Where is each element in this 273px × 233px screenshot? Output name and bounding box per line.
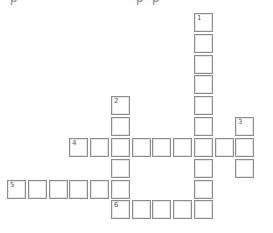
crossword-cell[interactable] xyxy=(69,180,88,199)
crossword-cell[interactable]: 3 xyxy=(235,117,254,136)
crossword-cell[interactable] xyxy=(152,138,171,157)
crossword-cell[interactable]: 2 xyxy=(111,96,130,115)
clue-number: 4 xyxy=(72,139,76,147)
crossword-cell[interactable] xyxy=(132,138,151,157)
clue-number: 1 xyxy=(197,14,201,22)
crossword-cell[interactable] xyxy=(194,180,213,199)
crossword-cell[interactable] xyxy=(173,138,192,157)
crossword-cell[interactable] xyxy=(194,55,213,74)
clue-number: 2 xyxy=(114,97,118,105)
crossword-cell[interactable]: 6 xyxy=(111,200,130,219)
crossword-cell[interactable] xyxy=(111,117,130,136)
crossword-cell[interactable] xyxy=(215,138,234,157)
crossword-cell[interactable]: 4 xyxy=(69,138,88,157)
crossword-cell[interactable] xyxy=(111,159,130,178)
clue-number: 6 xyxy=(114,201,118,209)
crossword-cell[interactable] xyxy=(194,34,213,53)
crossword-cell[interactable] xyxy=(194,117,213,136)
crossword-cell[interactable] xyxy=(194,200,213,219)
crossword-cell[interactable] xyxy=(90,138,109,157)
clue-number: 3 xyxy=(238,118,242,126)
crossword-cell[interactable] xyxy=(194,75,213,94)
crossword-cell[interactable] xyxy=(132,200,151,219)
crossword-cell[interactable] xyxy=(111,180,130,199)
crossword-cell[interactable] xyxy=(235,138,254,157)
crossword-cell[interactable] xyxy=(235,159,254,178)
crossword-cell[interactable] xyxy=(194,138,213,157)
crossword-cell[interactable] xyxy=(28,180,47,199)
crossword-cell[interactable] xyxy=(173,200,192,219)
crossword-cell[interactable] xyxy=(90,180,109,199)
clipped-text: p xyxy=(152,0,160,5)
crossword-cell[interactable] xyxy=(194,96,213,115)
crossword-cell[interactable] xyxy=(49,180,68,199)
crossword-cell[interactable]: 1 xyxy=(194,13,213,32)
clipped-text: p xyxy=(10,0,18,5)
clue-number: 5 xyxy=(10,181,14,189)
clipped-text: p xyxy=(136,0,144,5)
crossword-cell[interactable] xyxy=(111,138,130,157)
crossword-cell[interactable] xyxy=(152,200,171,219)
crossword-cell[interactable]: 5 xyxy=(7,180,26,199)
crossword-cell[interactable] xyxy=(194,159,213,178)
